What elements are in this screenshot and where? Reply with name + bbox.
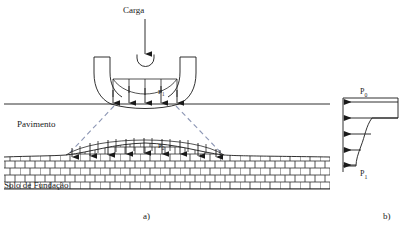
top-pressure-label: P0 (360, 88, 367, 98)
pressure-distribution-curve (343, 98, 398, 166)
subgrade-pressure-label: P2 (158, 143, 164, 151)
load-label: Carga (123, 6, 144, 15)
caption-a: a) (143, 212, 150, 221)
top-pressure-subscript: 0 (364, 92, 367, 98)
tire-load-distribution-figure: Carga Pavimento Solo de Fundação P1 P2 P… (0, 0, 414, 232)
caption-b: b) (383, 212, 391, 221)
tire-contact-pressure-subscript: 1 (162, 92, 165, 97)
tire-contact-arrows (113, 86, 177, 103)
bottom-pressure-subscript: 1 (364, 174, 367, 180)
pavement-label: Pavimento (17, 120, 56, 129)
subgrade-pressure-subscript: 2 (162, 146, 165, 151)
bottom-pressure-label: P1 (360, 170, 367, 180)
tire-contact-pressure-label: P1 (158, 89, 164, 97)
subgrade-label: Solo de Fundação (4, 181, 69, 190)
wheel-hub-icon (137, 55, 154, 67)
figure-drawing (0, 0, 414, 232)
pressure-distribution-arrows (344, 102, 398, 165)
